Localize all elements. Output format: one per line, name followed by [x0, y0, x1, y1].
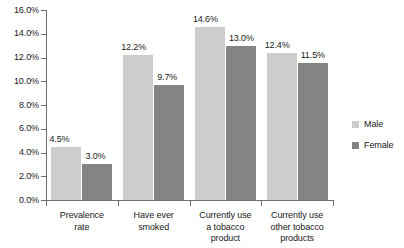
y-axis-tick-label: 4.0% — [1, 148, 39, 157]
y-axis-tick-label: 8.0% — [1, 101, 39, 110]
category-label-line: Have ever — [118, 210, 190, 222]
bar-chart: 0.0%2.0%4.0%6.0%8.0%10.0%12.0%14.0%16.0%… — [0, 0, 404, 248]
bar-value-label: 12.4% — [265, 40, 290, 50]
bar-male — [51, 147, 81, 200]
y-axis-tick-label: 0.0% — [1, 196, 39, 205]
bar-male — [123, 55, 153, 200]
bar-value-label: 12.2% — [121, 42, 146, 52]
bar-value-label: 13.0% — [229, 33, 254, 43]
bar-value-label: 11.5% — [301, 50, 325, 60]
legend-swatch-icon — [352, 142, 359, 149]
x-axis-end-tick — [333, 201, 334, 206]
legend-swatch-icon — [352, 121, 359, 128]
category-label-line: Currently use — [190, 210, 262, 222]
x-axis-separator — [46, 201, 47, 206]
bar-value-label: 14.6% — [193, 14, 218, 24]
category-label-line: a tobacco — [190, 222, 262, 234]
bar-male — [195, 27, 225, 200]
category-label-line: rate — [46, 222, 118, 234]
category-label-line: Currently use — [261, 210, 333, 222]
bar-male — [267, 53, 297, 200]
bar-value-label: 3.0% — [85, 151, 105, 161]
bar-female — [298, 63, 328, 200]
y-axis-tick-label: 6.0% — [1, 124, 39, 133]
legend-label: Female — [364, 141, 393, 150]
x-axis-separator — [190, 201, 191, 206]
y-axis-tick-label: 10.0% — [1, 77, 39, 86]
legend-item-male[interactable]: Male — [352, 117, 404, 131]
bar-value-label: 9.7% — [157, 72, 177, 82]
y-axis-tick-label: 12.0% — [1, 53, 39, 62]
x-axis-category-label: Have eversmoked — [118, 210, 190, 233]
x-axis-separator — [118, 201, 119, 206]
y-axis-tick-label: 14.0% — [1, 29, 39, 38]
legend: MaleFemale — [352, 117, 404, 159]
bars-container — [46, 10, 333, 200]
category-label-line: products — [261, 233, 333, 245]
y-axis-tick-label: 16.0% — [1, 6, 39, 15]
y-axis-tick-label: 2.0% — [1, 172, 39, 181]
bar-female — [82, 164, 112, 200]
legend-item-female[interactable]: Female — [352, 138, 404, 152]
bar-female — [154, 85, 184, 200]
bar-value-label: 4.5% — [49, 134, 69, 144]
y-axis-labels: 0.0%2.0%4.0%6.0%8.0%10.0%12.0%14.0%16.0% — [0, 0, 39, 248]
legend-label: Male — [364, 120, 383, 129]
category-label-line: Prevalence — [46, 210, 118, 222]
x-axis-separator — [261, 201, 262, 206]
x-axis-category-label: Prevalencerate — [46, 210, 118, 233]
bar-female — [226, 46, 256, 200]
category-label-line: other tobacco — [261, 222, 333, 234]
category-label-line: smoked — [118, 222, 190, 234]
category-label-line: product — [190, 233, 262, 245]
x-axis-category-label: Currently useother tobaccoproducts — [261, 210, 333, 245]
x-axis-category-label: Currently usea tobaccoproduct — [190, 210, 262, 245]
